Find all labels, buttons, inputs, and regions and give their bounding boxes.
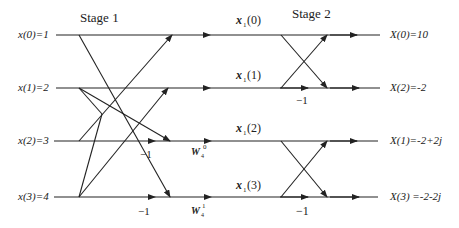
multiplier-stage1-row3: −1 [138,205,150,217]
intermediate-label-1: x 1 (1) [235,68,261,84]
multiplier-stage2-row3: −1 [296,204,309,218]
svg-text:x: x [235,178,242,192]
svg-text:W: W [191,146,201,157]
svg-text:4: 4 [201,153,204,159]
output-label-2: X(1)=-2+2j [389,134,442,147]
svg-text:x: x [235,13,242,27]
svg-text:(3): (3) [247,178,261,192]
intermediate-label-3: x 1 (3) [235,178,261,194]
svg-text:x: x [235,121,242,135]
svg-text:(0): (0) [247,13,261,27]
svg-text:0: 0 [203,143,207,151]
output-label-0: X(0)=10 [389,28,428,41]
svg-text:x: x [235,68,242,82]
svg-text:(2): (2) [247,121,261,135]
fft-butterfly-diagram: Stage 1 Stage 2 x(0)=1 x(1)=2 x(2)=3 x(3… [0,0,459,228]
intermediate-label-2: x 1 (2) [235,121,261,137]
svg-text:W: W [191,205,201,216]
multiplier-stage1-row2: −1 [140,148,152,160]
output-label-1: X(2)=-2 [389,81,427,94]
input-label-2: x(2)=3 [17,134,49,147]
intermediate-label-0: x 1 (0) [235,13,261,29]
input-label-1: x(1)=2 [17,81,49,94]
diagram-svg: Stage 1 Stage 2 x(0)=1 x(1)=2 x(2)=3 x(3… [0,0,459,228]
input-label-3: x(3)=4 [17,190,49,203]
svg-text:1: 1 [202,202,206,210]
svg-text:(1): (1) [247,68,261,82]
svg-text:4: 4 [201,212,204,218]
stage-1-label: Stage 1 [80,10,119,25]
twiddle-w40: W 4 0 [191,143,207,159]
input-label-0: x(0)=1 [17,28,49,41]
twiddle-w41: W 4 1 [191,202,206,218]
multiplier-stage2-row1: −1 [296,94,308,106]
output-label-3: X(3) =-2-2j [389,190,441,203]
stage-2-label: Stage 2 [292,6,331,21]
signal-lines [54,35,380,197]
